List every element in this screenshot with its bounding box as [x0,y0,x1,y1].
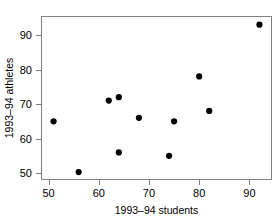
data-point [106,97,112,103]
data-point [76,169,82,175]
data-point [171,118,177,124]
x-axis-tick-label-70: 70 [143,187,155,199]
y-axis-tick-label-50: 50 [20,167,32,179]
x-axis-title: 1993–94 students [115,204,199,216]
data-point [196,73,202,79]
data-point [50,118,56,124]
x-axis-tick-label-50: 50 [42,187,54,199]
y-axis-title: 1993–94 athletes [3,58,15,139]
y-axis-tick-label-60: 60 [20,133,32,145]
y-axis-tick-label-80: 80 [20,64,32,76]
x-axis-tick-label-80: 80 [193,187,205,199]
data-point [256,22,262,28]
data-point [206,108,212,114]
y-axis-tick-label-90: 90 [20,29,32,41]
plot-panel-border [42,17,272,180]
x-axis-tick-label-90: 90 [243,187,255,199]
data-point [116,94,122,100]
data-point [136,115,142,121]
data-point [116,149,122,155]
x-axis-tick-label-60: 60 [93,187,105,199]
data-point [166,153,172,159]
plot-canvas: 506070809050607080901993–94 students1993… [0,0,279,222]
y-axis-tick-label-70: 70 [20,98,32,110]
scatter-plot-figure: 506070809050607080901993–94 students1993… [0,0,279,222]
